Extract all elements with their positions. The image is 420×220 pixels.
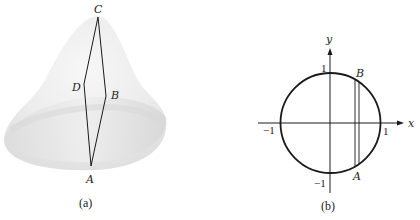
point-a-label: A (85, 173, 94, 186)
y-axis-arrow-icon (328, 48, 333, 55)
x-axis-arrow-icon (397, 121, 404, 126)
y-axis-label: y (325, 33, 333, 46)
panel-a: C D B A (a) (4, 3, 166, 210)
x-axis-label: x (408, 117, 415, 130)
panel-a-caption: (a) (79, 196, 92, 210)
point-c-label: C (94, 3, 103, 16)
panel-b: y x 1 −1 1 −1 B A (b) (258, 33, 415, 213)
panel-b-caption: (b) (321, 199, 335, 213)
tick-x-neg: −1 (263, 124, 275, 136)
point-b-label: B (110, 89, 119, 102)
point-d-label: D (71, 81, 81, 94)
point-a-label: A (352, 170, 361, 183)
tick-y-neg: −1 (314, 177, 326, 189)
tick-y-pos: 1 (321, 62, 327, 74)
tick-x-pos: 1 (383, 125, 389, 137)
point-b-label: B (355, 67, 364, 80)
figure: C D B A (a) y x 1 −1 1 −1 B A (b) (0, 0, 420, 220)
